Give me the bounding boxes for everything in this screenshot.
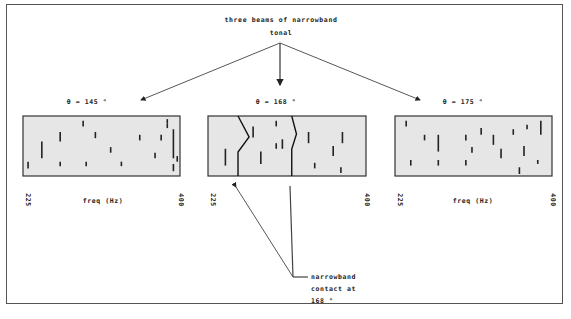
beam-3-freq-start: 225 (396, 193, 404, 207)
beam-1-freq-start: 225 (24, 193, 32, 207)
beam-2-freq-end: 400 (363, 193, 371, 207)
beam-2-spectrogram (208, 116, 366, 176)
callout-line-left (236, 187, 293, 277)
annotation-line-2: contact at (311, 285, 356, 293)
annotation-line-1: narrowband (311, 273, 356, 281)
title-line-2: tonal (270, 29, 293, 37)
arrow-to-beam-1 (141, 43, 280, 100)
beam-2-freq-start: 225 (209, 193, 217, 207)
callout-line-right (290, 186, 293, 277)
beam-3-freq-end: 400 (549, 193, 557, 207)
beam-1-panel (23, 116, 180, 176)
beam-3-xlabel: freq (Hz) (453, 197, 494, 205)
beam-3-panel (395, 116, 552, 176)
beam-1-xlabel: freq (Hz) (83, 197, 124, 205)
beam-2-label: θ = 168 ° (256, 98, 297, 106)
beam-3-label: θ = 175 ° (443, 98, 484, 106)
title-line-1: three beams of narrowband (225, 16, 338, 24)
beam-1-spectrogram (23, 116, 180, 176)
beam-3-spectrogram (395, 116, 552, 176)
annotation-line-3: 168 ° (311, 297, 334, 305)
beam-1-label: θ = 145 ° (67, 98, 108, 106)
arrow-to-beam-3 (280, 43, 420, 100)
sonar-beam-diagram: three beams of narrowband tonal θ = 145 … (0, 0, 571, 319)
beam-2-panel (208, 116, 366, 176)
beam-1-freq-end: 400 (177, 193, 185, 207)
